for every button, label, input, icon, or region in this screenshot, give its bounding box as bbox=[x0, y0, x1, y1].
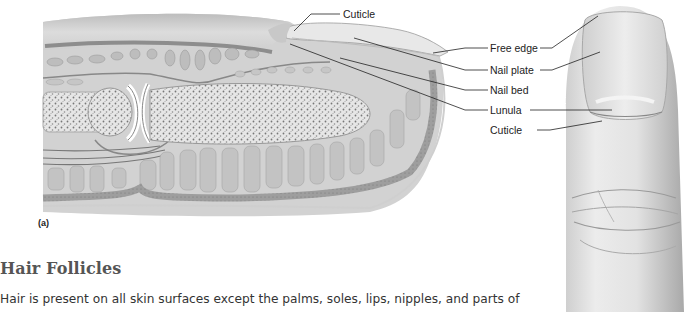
thumb-photo bbox=[566, 6, 684, 312]
section-heading: Hair Follicles bbox=[0, 259, 121, 278]
label-free-edge: Free edge bbox=[490, 42, 538, 54]
section-body-text: Hair is present on all skin surfaces exc… bbox=[0, 292, 600, 306]
panel-letter-a: (a) bbox=[38, 218, 49, 228]
label-lunula: Lunula bbox=[490, 104, 522, 116]
label-nail-plate: Nail plate bbox=[490, 64, 534, 76]
label-nail-bed: Nail bed bbox=[490, 84, 529, 96]
label-cuticle-top: Cuticle bbox=[343, 8, 375, 20]
finger-cross-section bbox=[43, 14, 448, 217]
label-cuticle-bottom: Cuticle bbox=[490, 124, 522, 136]
